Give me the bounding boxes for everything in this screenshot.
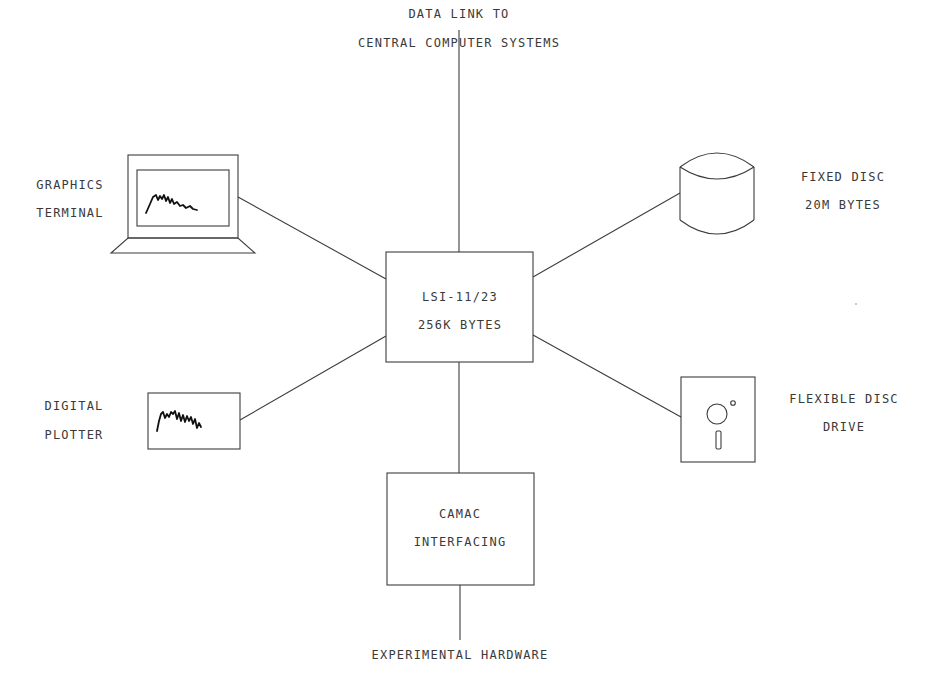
edge-flexible-disc: [533, 335, 681, 417]
cpu-label-line1: LSI-11/23: [422, 290, 498, 304]
camac-label-line2: INTERFACING: [414, 535, 507, 549]
diagram-canvas: [0, 0, 939, 688]
fixed-disc-label-line1: FIXED DISC: [801, 170, 885, 184]
terminal-label-line2: TERMINAL: [36, 206, 103, 220]
cpu-label-line2: 256K BYTES: [418, 318, 502, 332]
floppy-disk-icon: [681, 377, 755, 462]
fixed-disc-label-line2: 20M BYTES: [805, 198, 881, 212]
experimental-hardware-label: EXPERIMENTAL HARDWARE: [372, 648, 549, 662]
edge-plotter: [240, 336, 386, 420]
top-link-label-line1: DATA LINK TO: [408, 7, 509, 21]
cpu-box: [386, 252, 533, 362]
speck: [855, 303, 857, 305]
edge-fixed-disc: [533, 193, 680, 277]
camac-label-line1: CAMAC: [439, 507, 481, 521]
top-link-label-line2: CENTRAL COMPUTER SYSTEMS: [358, 36, 560, 50]
plotter-label-line2: PLOTTER: [45, 428, 104, 442]
plotter-label-line1: DIGITAL: [45, 399, 104, 413]
flexible-disc-label-line1: FLEXIBLE DISC: [789, 392, 899, 406]
terminal-label-line1: GRAPHICS: [36, 178, 103, 192]
plotter-icon: [148, 393, 240, 449]
terminal-icon: [111, 155, 255, 253]
camac-box: [387, 473, 534, 585]
flexible-disc-label-line2: DRIVE: [823, 420, 865, 434]
disc-cylinder-icon: [680, 153, 754, 234]
edge-terminal: [238, 197, 386, 279]
